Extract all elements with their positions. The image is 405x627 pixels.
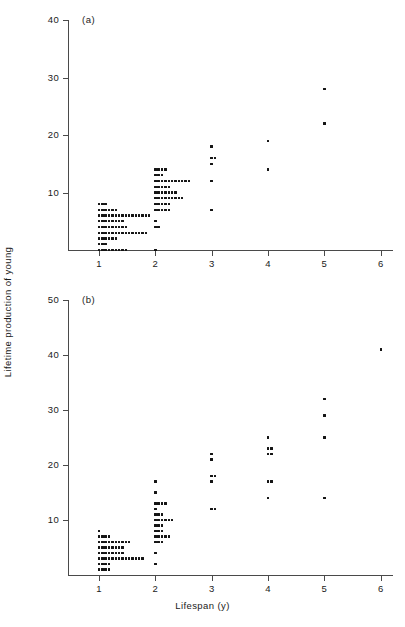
x-tick-label: 2 [145,258,165,269]
y-tick-label: 40 [34,14,59,25]
y-tick-label: 20 [34,459,59,470]
data-point [154,502,156,504]
data-point [178,197,180,199]
x-tick-label: 6 [371,258,391,269]
data-point [154,174,156,176]
x-tick [212,576,213,581]
data-point [121,232,123,234]
data-point [108,226,110,228]
x-tick [212,251,213,256]
data-point [101,563,103,565]
data-point [184,180,186,182]
data-point [98,237,100,239]
data-point [111,220,113,222]
x-tick-label: 4 [258,583,278,594]
data-point [108,535,110,537]
data-point [101,209,103,211]
data-point [121,249,123,251]
data-point [214,508,216,510]
data-point [154,530,156,532]
data-point [161,513,163,515]
data-point [174,191,176,193]
data-point [161,203,163,205]
x-tick [324,576,325,581]
data-point [154,209,156,211]
data-point [164,502,166,504]
data-point [210,475,212,477]
data-point [267,453,269,455]
x-tick-label: 3 [202,258,222,269]
x-tick-label: 2 [145,583,165,594]
data-point [118,214,120,216]
data-point [210,508,212,510]
data-point [98,232,100,234]
data-point [168,197,170,199]
data-point [154,535,156,537]
data-point [164,168,166,170]
data-point [101,243,103,245]
data-point [125,249,127,251]
data-point [161,524,163,526]
data-point [214,157,216,159]
y-tick-label: 10 [34,187,59,198]
data-point [171,191,173,193]
data-point [121,541,123,543]
data-point [188,180,190,182]
data-point [135,557,137,559]
data-point [168,191,170,193]
data-point [168,535,170,537]
data-point [104,249,106,251]
data-point [210,163,212,165]
data-point [111,557,113,559]
data-point [121,552,123,554]
data-point [157,197,159,199]
data-point [168,519,170,521]
data-point [98,563,100,565]
data-point [141,557,143,559]
data-point [154,491,156,493]
data-point [125,557,127,559]
data-point [121,214,123,216]
data-point [157,168,159,170]
data-point [98,535,100,537]
data-point [104,535,106,537]
data-point [125,226,127,228]
data-point [161,519,163,521]
data-point [115,209,117,211]
y-tick-label: 10 [34,514,59,525]
data-point [161,502,163,504]
y-tick [63,300,68,301]
data-point [111,552,113,554]
y-tick [63,355,68,356]
data-point [125,214,127,216]
data-point [118,220,120,222]
data-point [108,546,110,548]
data-point [98,530,100,532]
data-point [157,191,159,193]
data-point [171,180,173,182]
data-point [108,563,110,565]
data-point [157,502,159,504]
x-tick [268,251,269,256]
data-point [101,232,103,234]
data-point [101,541,103,543]
data-point [323,497,325,499]
y-tick [63,78,68,79]
data-point [101,568,103,570]
data-point [115,214,117,216]
data-point [210,157,212,159]
data-point [164,535,166,537]
panel-tag: (a) [82,14,95,25]
y-tick-label: 30 [34,72,59,83]
data-point [115,237,117,239]
data-point [111,209,113,211]
data-point [111,541,113,543]
data-point [210,458,212,460]
data-point [154,197,156,199]
data-point [108,232,110,234]
x-tick-label: 5 [314,258,334,269]
data-point [161,197,163,199]
data-point [104,209,106,211]
data-point [380,348,382,350]
x-tick-label: 1 [89,258,109,269]
